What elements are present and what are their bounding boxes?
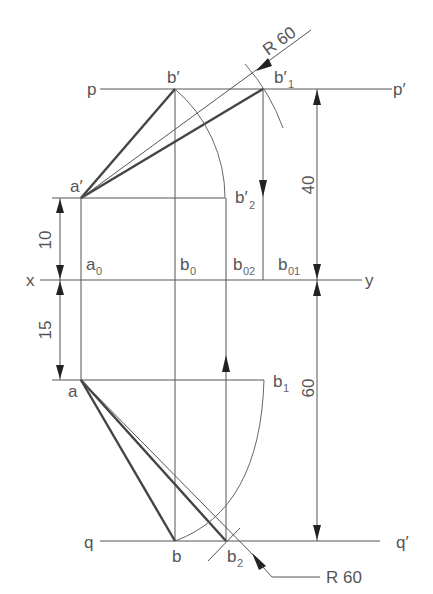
label-b02-sub: 02 bbox=[243, 265, 255, 277]
dim-15-top-arrow-icon bbox=[56, 281, 64, 295]
up-arrow-icon bbox=[222, 355, 230, 372]
label-q: q bbox=[84, 533, 93, 552]
dim-40-label: 40 bbox=[299, 176, 318, 195]
down-arrow-icon bbox=[259, 180, 267, 197]
label-b1-sub: 1 bbox=[283, 382, 289, 394]
label-b0-sub: 0 bbox=[190, 265, 196, 277]
dim-10-label: 10 bbox=[36, 231, 55, 250]
dim-40-top-arrow-icon bbox=[313, 90, 321, 105]
dim-10-top-arrow-icon bbox=[56, 199, 64, 213]
line-a-b bbox=[81, 380, 175, 541]
label-a0-sub: 0 bbox=[96, 265, 102, 277]
r60-bottom-leader bbox=[262, 566, 320, 577]
dim-60-label: 60 bbox=[299, 379, 318, 398]
label-b02: b bbox=[233, 255, 242, 274]
r60-top-construction bbox=[81, 30, 311, 198]
label-b2-sub: 2 bbox=[237, 557, 243, 569]
label-b-prime: b′ bbox=[167, 68, 180, 87]
label-b01-sub: 01 bbox=[288, 265, 300, 277]
label-b1-prime-sub: 1 bbox=[288, 78, 294, 90]
dim-60-bottom-arrow-icon bbox=[313, 525, 321, 540]
label-p: p bbox=[87, 80, 96, 99]
label-b01: b bbox=[278, 255, 287, 274]
arc-top-bprime-to-b2prime bbox=[175, 89, 225, 198]
label-a0: a bbox=[86, 255, 96, 274]
dim-15-label: 15 bbox=[36, 321, 55, 340]
label-a: a bbox=[68, 382, 78, 401]
label-a-prime: a′ bbox=[70, 177, 83, 196]
dim-10-bottom-arrow-icon bbox=[56, 265, 64, 279]
dim-15-bottom-arrow-icon bbox=[56, 365, 64, 379]
dim-40-bottom-arrow-icon bbox=[313, 264, 321, 279]
line-a-prime-b-prime bbox=[81, 89, 175, 198]
orthographic-projection-drawing: 10 15 40 60 R 60 R 60 p p′ x y q q′ b′ a… bbox=[0, 0, 433, 594]
label-p-prime: p′ bbox=[393, 80, 406, 99]
line-a-prime-b1-prime bbox=[81, 89, 263, 198]
label-y: y bbox=[365, 271, 374, 290]
label-b2-prime: b′ bbox=[235, 188, 248, 207]
label-b1: b bbox=[273, 372, 282, 391]
label-b2-prime-sub: 2 bbox=[249, 199, 255, 211]
dim-60-top-arrow-icon bbox=[313, 281, 321, 296]
arc-bottom-b1-to-b bbox=[175, 380, 264, 541]
label-b1-prime: b′ bbox=[274, 68, 287, 87]
r60-bottom-label: R 60 bbox=[326, 568, 362, 587]
line-a-b2 bbox=[81, 380, 226, 541]
label-b: b bbox=[172, 547, 181, 566]
label-b2: b bbox=[227, 547, 236, 566]
label-b0: b bbox=[180, 255, 189, 274]
label-x: x bbox=[26, 271, 35, 290]
label-q-prime: q′ bbox=[396, 533, 409, 552]
